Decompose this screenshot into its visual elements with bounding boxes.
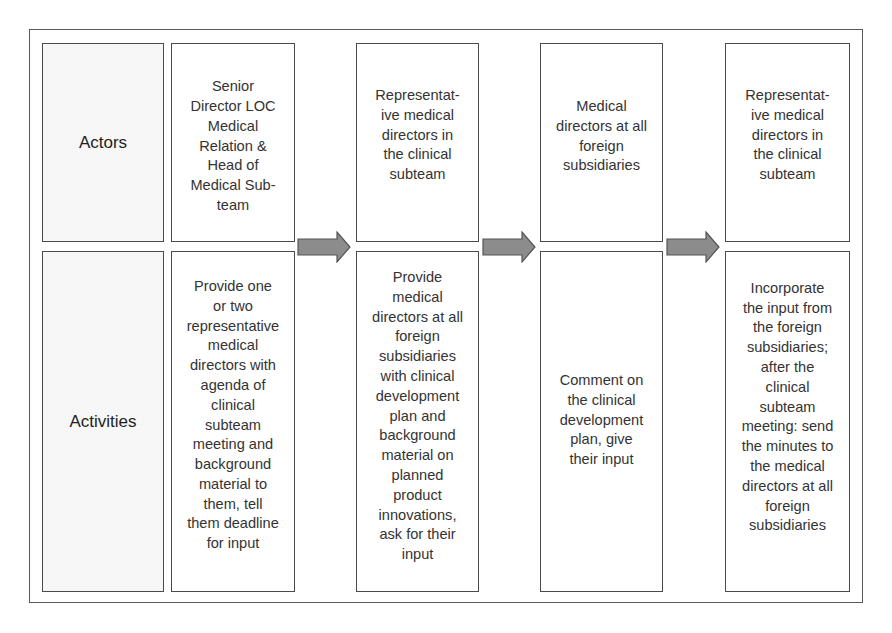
step-2-activity-text: Provide medical directors at all foreign… [368,268,467,565]
flow-arrow-3-icon [666,231,720,263]
step-3-activity-text: Comment on the clinical development plan… [556,371,648,470]
step-4-activity-box: Incorporate the input from the foreign s… [725,251,850,592]
activities-label-text: Activities [65,412,140,432]
step-4-actor-box: Representat- ive medical directors in th… [725,43,850,242]
flow-arrow-1-icon [297,231,351,263]
actors-label-text: Actors [75,133,131,153]
step-4-actor-text: Representat- ive medical directors in th… [741,86,833,185]
step-3-actor-box: Medical directors at all foreign subsidi… [540,43,663,242]
flow-arrow-2-icon [482,231,536,263]
step-4-activity-text: Incorporate the input from the foreign s… [738,279,838,536]
step-2-activity-box: Provide medical directors at all foreign… [356,251,479,592]
step-1-actor-text: Senior Director LOC Medical Relation & H… [188,77,277,216]
step-3-actor-text: Medical directors at all foreign subsidi… [552,97,651,176]
step-2-actor-text: Representat- ive medical directors in th… [371,86,463,185]
activities-row-label: Activities [42,251,164,592]
step-1-activity-box: Provide one or two representative medica… [171,251,295,592]
step-1-actor-box: Senior Director LOC Medical Relation & H… [171,43,295,242]
step-2-actor-box: Representat- ive medical directors in th… [356,43,479,242]
step-1-activity-text: Provide one or two representative medica… [185,277,281,554]
step-3-activity-box: Comment on the clinical development plan… [540,251,663,592]
actors-row-label: Actors [42,43,164,242]
